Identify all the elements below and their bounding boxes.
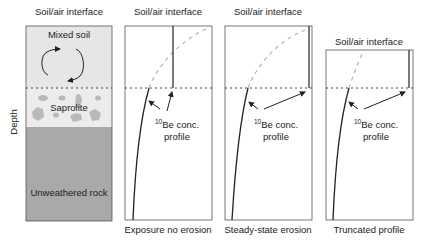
panel-exposure-no-erosion: Soil/air interface 10Be conc. profile Ex… bbox=[124, 6, 212, 235]
depth-axis-label: Depth bbox=[8, 109, 19, 134]
panel-steady-state-erosion: Soil/air interface 10Be conc. profile St… bbox=[224, 6, 312, 235]
soil-column-panel: Soil/air interface Mixed soil Saprolite … bbox=[8, 6, 112, 221]
panel-truncated-profile: Soil/air interface 10Be conc. profile Tr… bbox=[326, 36, 413, 235]
be10-annotation-line2: profile bbox=[363, 131, 389, 142]
be10-annotation: 10Be conc. bbox=[155, 118, 199, 130]
be10-annotation-line2: profile bbox=[164, 131, 190, 142]
soil-profile-diagram: Soil/air interface Mixed soil Saprolite … bbox=[0, 0, 425, 243]
be10-annotation-line2: profile bbox=[263, 131, 289, 142]
panel-top-label: Soil/air interface bbox=[234, 6, 302, 17]
panel-caption: Truncated profile bbox=[334, 224, 405, 235]
be10-annotation: 10Be conc. bbox=[354, 118, 398, 130]
saprolite-label: Saprolite bbox=[50, 102, 88, 113]
panel-caption: Steady-state erosion bbox=[224, 224, 311, 235]
panel-top-label: Soil/air interface bbox=[134, 6, 202, 17]
unweathered-rock-label: Unweathered rock bbox=[30, 187, 107, 198]
soil-column-top-label: Soil/air interface bbox=[35, 6, 103, 17]
mixed-soil-label: Mixed soil bbox=[48, 29, 90, 40]
unweathered-rock-layer bbox=[26, 127, 112, 221]
panel-caption: Exposure no erosion bbox=[124, 224, 211, 235]
be10-annotation: 10Be conc. bbox=[254, 118, 298, 130]
panel-top-label: Soil/air interface bbox=[335, 36, 403, 47]
